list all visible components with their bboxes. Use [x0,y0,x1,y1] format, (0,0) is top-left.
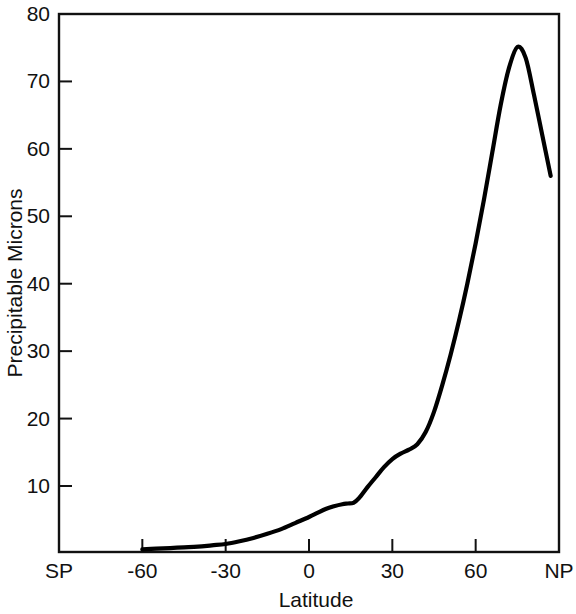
y-tick-label: 30 [27,339,50,362]
y-axis-tick-labels: 1020304050607080 [27,2,50,497]
precipitable-microns-vs-latitude-chart: 1020304050607080 SP-60-3003060NP Latitud… [0,0,576,614]
y-tick-label: 40 [27,272,50,295]
x-tick-label: SP [45,559,73,582]
y-axis-ticks [59,81,72,486]
x-tick-label: -30 [210,559,240,582]
x-tick-label: 60 [464,559,487,582]
chart-figure: 1020304050607080 SP-60-3003060NP Latitud… [0,0,576,614]
y-tick-label: 10 [27,474,50,497]
data-series-line [142,47,550,550]
x-tick-label: 0 [303,559,315,582]
x-tick-label: NP [544,559,573,582]
x-tick-label: 30 [381,559,404,582]
y-tick-label: 50 [27,204,50,227]
y-axis-title: Precipitable Microns [3,188,26,377]
y-tick-label: 80 [27,2,50,25]
plot-frame [59,14,559,552]
x-axis-title: Latitude [279,588,354,611]
x-axis-tick-labels: SP-60-3003060NP [45,559,574,582]
y-tick-label: 20 [27,407,50,430]
x-tick-label: -60 [127,559,157,582]
y-tick-label: 60 [27,137,50,160]
y-tick-label: 70 [27,69,50,92]
